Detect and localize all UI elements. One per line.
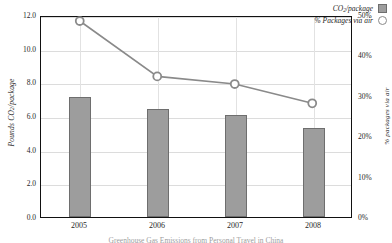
- line-marker: [76, 17, 84, 25]
- legend-item-co2: CO2/package: [333, 4, 387, 13]
- left-tick-label: 2.0: [8, 179, 36, 188]
- left-axis-ticks: 0.02.04.06.08.010.012.0: [8, 0, 36, 243]
- left-tick-label: 10.0: [8, 45, 36, 54]
- chart-legend: CO2/package % Packages via air: [314, 4, 387, 25]
- line-marker: [308, 99, 316, 107]
- right-tick-label: 20%: [358, 132, 372, 141]
- plot-area: [40, 16, 352, 218]
- right-tick-label: 0%: [358, 213, 368, 222]
- x-tick-label: 2006: [149, 221, 165, 230]
- trend-line: [80, 21, 312, 103]
- line-series: [41, 17, 351, 218]
- left-tick-label: 6.0: [8, 112, 36, 121]
- legend-label-air: % Packages via air: [314, 16, 373, 25]
- right-tick-label: 10%: [358, 173, 372, 182]
- right-tick-label: 40%: [358, 51, 372, 60]
- x-tick-label: 2005: [71, 221, 87, 230]
- line-marker: [153, 72, 161, 80]
- left-tick-label: 0.0: [8, 213, 36, 222]
- line-marker: [231, 80, 239, 88]
- legend-circle-marker-icon: [378, 16, 387, 25]
- chart-container: Pounds CO2/package % packages via air 0.…: [0, 0, 392, 243]
- x-tick-label: 2008: [305, 221, 321, 230]
- left-tick-label: 8.0: [8, 78, 36, 87]
- right-axis-ticks: 0%10%20%30%40%50%: [358, 0, 390, 243]
- chart-caption: Greenhouse Gas Emissions from Personal T…: [0, 236, 392, 243]
- x-tick-label: 2007: [227, 221, 243, 230]
- x-axis-ticks: 2005200620072008: [40, 221, 352, 235]
- right-tick-label: 30%: [358, 92, 372, 101]
- legend-item-air: % Packages via air: [314, 16, 387, 25]
- legend-label-co2: CO2/package: [333, 4, 373, 13]
- legend-bar-swatch-icon: [378, 4, 387, 13]
- left-tick-label: 12.0: [8, 11, 36, 20]
- left-tick-label: 4.0: [8, 146, 36, 155]
